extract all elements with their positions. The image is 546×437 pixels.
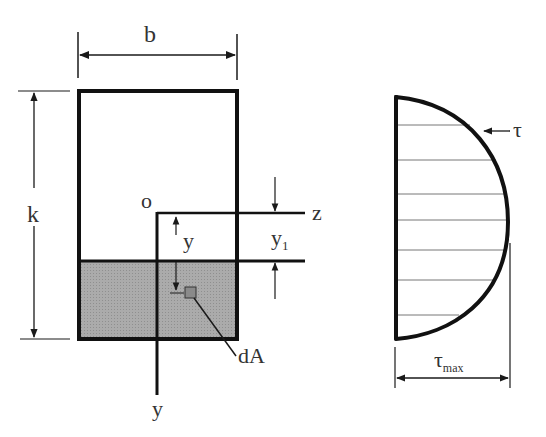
diagram-svg [0,0,546,437]
width-label: b [144,22,156,46]
y1-subscript: 1 [282,238,289,253]
y-distance-label: y [183,230,194,252]
tau-label: τ [513,119,522,141]
stress-profile [396,95,508,340]
diagram-canvas: b k o z y y y1 dA τ τmax [0,0,546,437]
width-dimension [78,32,237,80]
y1-main: y [271,225,282,250]
y-axis-label: y [152,398,163,420]
origin-label: o [141,190,152,212]
dA-label: dA [238,345,265,367]
y1-label: y1 [271,227,289,249]
height-label: k [27,202,39,226]
z-axis-label: z [312,202,322,224]
tau-max-label: τmax [434,349,464,371]
dA-element [185,287,196,298]
tau-max-subscript: max [443,361,464,375]
height-dimension [18,91,70,339]
tau-max-main: τ [434,347,443,372]
